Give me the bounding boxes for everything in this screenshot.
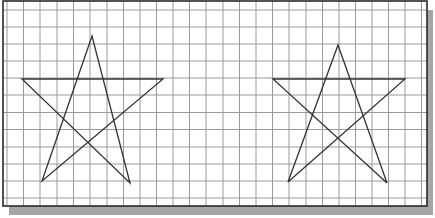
grid-sheet bbox=[3, 1, 427, 206]
grid-sheet-with-stars bbox=[0, 0, 435, 218]
diagram-canvas bbox=[0, 0, 435, 218]
